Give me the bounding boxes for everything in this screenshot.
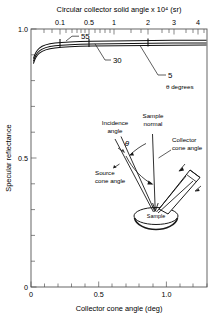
source-cone-angle-label-line1: Source [95,169,115,176]
x-tick-label: 0 [29,290,33,299]
collector-label-leader [159,150,172,158]
y-axis-tick-labels: 1.0 0.5 0 [18,25,28,292]
y-tick-label: 0.5 [18,154,28,163]
incidence-angle-label-line2: angle [107,127,123,134]
theta-symbol-label: θ [125,139,130,148]
top-axis-ticks [44,29,204,35]
source-cone-angle-label-line2: cone angle [95,177,126,184]
inset-diagram: Sample [95,112,203,230]
top-tick-label: 0.5 [84,18,94,27]
source-beam-cone [113,137,155,213]
top-tick-label: 0.1 [55,18,65,27]
top-axis-title: Circular collector solid angle x 10⁴ (sr… [57,5,182,14]
y-axis-ticks [31,29,37,287]
top-tick-label: 2 [146,18,150,27]
sample-normal-arrow [153,134,159,211]
figure-container: Circular collector solid angle x 10⁴ (sr… [0,0,219,321]
x-tick-label: 0.5 [94,290,104,299]
sample-stage-label: Sample [147,213,165,219]
top-tick-label: 1 [112,18,116,27]
chart-svg: Circular collector solid angle x 10⁴ (sr… [0,0,219,321]
top-tick-label: 4 [196,18,200,27]
y-tick-label: 1.0 [18,25,28,34]
x-tick-label: 1.0 [161,290,171,299]
collector-arm-icon [159,170,200,214]
x-axis-title: Collector cone angle (deg) [76,304,163,313]
y-axis-title: Specular reflectance [4,124,13,191]
collector-cone-angle-label-line1: Collector [172,136,196,143]
curve-units-label: θ degrees [166,83,194,90]
sample-normal-label-line2: normal [144,120,163,127]
top-axis-tick-labels: 0.1 0.5 1 2 3 4 [55,18,200,27]
curve-label-30: 30 [113,56,122,65]
plot-frame [31,29,207,287]
curve-label-55: 55 [81,32,90,41]
x-axis-ticks [31,282,207,288]
y-tick-label: 0 [24,283,28,292]
curve-label-5: 5 [168,71,173,80]
collector-cone-angle-label-line2: cone angle [172,144,203,151]
top-tick-label: 3 [172,18,176,27]
x-axis-tick-labels: 0 0.5 1.0 [29,290,171,299]
sample-normal-label-line1: Sample [143,112,165,119]
incidence-angle-label-line1: Incidence [102,119,129,126]
